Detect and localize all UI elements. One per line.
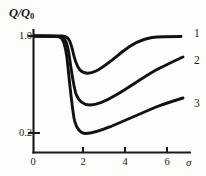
y-tick-label-0.2: 0.2 [10, 128, 32, 139]
plot-area [0, 0, 206, 176]
y-axis-label-subscript: 0 [30, 11, 34, 21]
y-axis-label-main: Q/Q [9, 6, 30, 20]
curve-2 [35, 36, 184, 105]
x-tick-label-4: 4 [118, 157, 132, 168]
chart-figure: Q/Q0 1.0 0.2 0 2 4 6 σ 1 2 3 [0, 0, 206, 176]
x-tick-label-6: 6 [160, 157, 174, 168]
curve-label-1: 1 [194, 28, 200, 40]
curve-label-2: 2 [194, 55, 200, 67]
curve-3 [35, 36, 184, 134]
x-axis-label: σ [186, 157, 191, 168]
y-tick-label-1.0: 1.0 [10, 31, 32, 42]
x-tick-label-2: 2 [76, 157, 90, 168]
x-tick-label-0: 0 [26, 157, 40, 168]
y-axis-label: Q/Q0 [9, 7, 34, 20]
curve-label-3: 3 [194, 98, 200, 110]
